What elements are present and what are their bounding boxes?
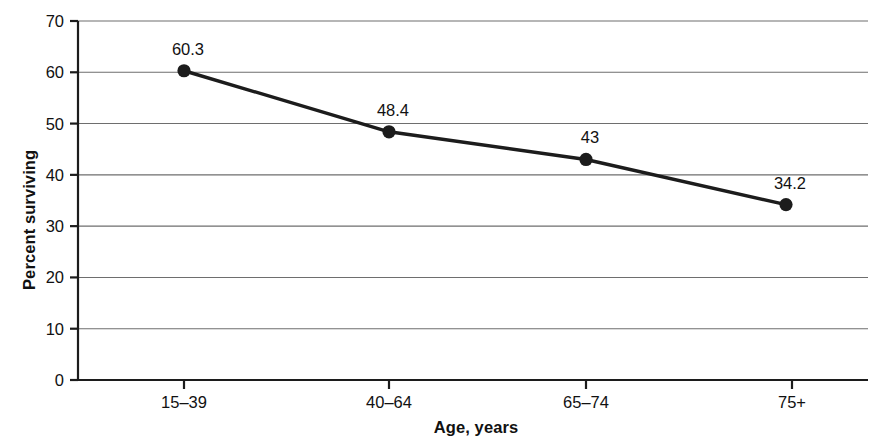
y-axis-tick-label: 10 (46, 320, 64, 338)
data-series-line (184, 71, 786, 205)
data-point-marker (779, 198, 792, 211)
y-axis-tick-label: 30 (46, 217, 64, 235)
chart-container: 010203040506070 15–3940–6465–7475+ 60.34… (0, 0, 878, 441)
y-axis-tick-label: 40 (46, 166, 64, 184)
line-chart-svg: 010203040506070 15–3940–6465–7475+ 60.34… (0, 0, 878, 441)
data-point-marker (177, 64, 190, 77)
y-axis-tick-labels: 010203040506070 (46, 12, 64, 389)
y-axis-tick-label: 0 (55, 371, 64, 389)
data-point-label: 48.4 (377, 101, 409, 119)
x-axis-tick-label: 65–74 (563, 393, 609, 411)
data-point-label: 60.3 (172, 40, 204, 58)
y-axis-title: Percent surviving (20, 150, 39, 290)
data-point-label: 34.2 (774, 174, 806, 192)
y-axis-tick-marks (70, 21, 78, 380)
y-axis-tick-label: 70 (46, 12, 64, 30)
data-point-markers (177, 64, 792, 211)
x-axis-tick-label: 75+ (778, 393, 806, 411)
data-point-marker (382, 125, 395, 138)
data-point-label: 43 (581, 128, 599, 146)
data-point-marker (579, 153, 592, 166)
x-axis-tick-label: 15–39 (161, 393, 207, 411)
y-axis-tick-label: 20 (46, 268, 64, 286)
x-axis-title: Age, years (0, 418, 878, 437)
x-axis-tick-label: 40–64 (366, 393, 412, 411)
x-axis-tick-labels: 15–3940–6465–7475+ (161, 393, 806, 411)
series-line (184, 71, 786, 205)
y-axis-tick-label: 60 (46, 63, 64, 81)
y-axis-tick-label: 50 (46, 115, 64, 133)
x-axis-tick-marks (184, 380, 792, 389)
data-point-labels: 60.348.44334.2 (172, 40, 806, 192)
